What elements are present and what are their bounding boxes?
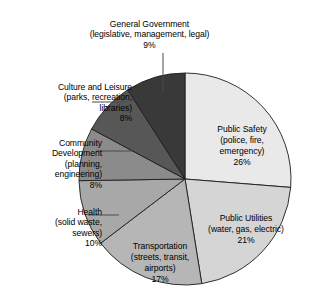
slice-percent-public-safety: 26% xyxy=(233,157,250,167)
callout-label-culture-leisure: Culture and Leisure (parks, recreation, … xyxy=(14,71,132,135)
callout-label-general-government: General Government (legislative, managem… xyxy=(62,8,237,61)
callout-text-health: Health (solid waste, sewers) xyxy=(55,207,102,238)
callout-label-community-development: Community Development (planning, enginee… xyxy=(6,127,102,201)
slice-percent-transportation: 17% xyxy=(151,274,168,284)
callout-percent-community-development: 8% xyxy=(6,180,102,191)
slice-label-transportation: Transportation (streets, transit, airpor… xyxy=(110,230,210,285)
slice-text-transportation: Transportation (streets, transit, airpor… xyxy=(131,241,189,273)
callout-text-general-government: General Government (legislative, managem… xyxy=(90,19,210,40)
callout-percent-culture-leisure: 8% xyxy=(14,113,132,124)
slice-text-public-utilities: Public Utilities (water, gas, electric) xyxy=(208,213,284,234)
callout-text-community-development: Community Development (planning, enginee… xyxy=(52,138,102,180)
callout-percent-general-government: 9% xyxy=(62,40,237,51)
callout-text-culture-leisure: Culture and Leisure (parks, recreation, … xyxy=(58,82,132,113)
callout-label-health: Health (solid waste, sewers) 10% xyxy=(4,196,102,260)
slice-label-public-safety: Public Safety (police, fire, emergency) … xyxy=(196,113,288,168)
slice-text-public-safety: Public Safety (police, fire, emergency) xyxy=(217,124,267,156)
slice-percent-public-utilities: 21% xyxy=(237,235,254,245)
callout-percent-health: 10% xyxy=(4,238,102,249)
pie-chart-figure: General Government (legislative, managem… xyxy=(0,0,313,308)
